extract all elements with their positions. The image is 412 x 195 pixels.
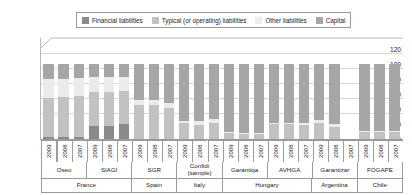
bar-segment [43, 98, 53, 137]
bar-slot[interactable] [372, 49, 387, 139]
stacked-bar[interactable] [344, 49, 354, 139]
x-axis-year-cell: 2007 [208, 140, 223, 162]
stacked-bar[interactable] [58, 49, 68, 139]
x-axis-year-row: 2009200820072009200820072009200820072009… [41, 139, 403, 162]
stacked-bar[interactable] [89, 49, 99, 139]
x-axis-year-cell: 2008 [283, 140, 298, 162]
x-axis-institution-cell: SGR [132, 162, 177, 179]
x-axis-country-cell: Hungary [223, 179, 313, 193]
x-axis-year-cell: 2007 [388, 140, 403, 162]
bar-segment [359, 132, 369, 140]
x-axis-year-cell: 2008 [192, 140, 207, 162]
bar-slot[interactable] [176, 49, 191, 139]
stacked-bar[interactable] [74, 49, 84, 139]
legend-item-typical-liabilities: Typical (or operating) liabilities [152, 17, 247, 24]
stacked-bar[interactable] [329, 49, 339, 139]
bar-slot[interactable] [71, 49, 86, 139]
legend-label: Other liabilities [265, 17, 306, 24]
x-axis-country-cell: France [41, 179, 132, 193]
bar-slot[interactable] [222, 49, 237, 139]
bar-slot[interactable] [116, 49, 131, 139]
bar-segment [58, 64, 68, 79]
x-axis-country-cell: Chile [358, 179, 403, 193]
x-axis-institution-row: OseoSIAGISGRConfidi (sample)GarantiqaAVH… [41, 162, 403, 179]
bar-slot[interactable] [207, 49, 222, 139]
stacked-bar[interactable] [164, 49, 174, 139]
stacked-bar[interactable] [209, 49, 219, 139]
x-axis-year-cell: 2008 [147, 140, 162, 162]
x-axis-year-cell: 2008 [328, 140, 343, 162]
stacked-bar[interactable] [314, 49, 324, 139]
stacked-bar[interactable] [239, 49, 249, 139]
bar-segment [58, 97, 68, 137]
stacked-bar[interactable] [254, 49, 264, 139]
bar-slot[interactable] [267, 49, 282, 139]
bar-segment [104, 126, 114, 140]
bar-segment [104, 92, 114, 126]
stacked-bar[interactable] [389, 49, 399, 139]
stacked-bar[interactable] [359, 49, 369, 139]
bar-segment [209, 64, 219, 119]
stacked-bar[interactable] [134, 49, 144, 139]
bar-slot[interactable] [41, 49, 56, 139]
x-axis-year-cell: 2009 [41, 140, 57, 162]
bar-segment [194, 125, 204, 139]
x-axis-country-cell: Italy [177, 179, 222, 193]
stacked-bar[interactable] [194, 49, 204, 139]
bar-segment [179, 64, 189, 121]
x-axis-year-cell: 2007 [253, 140, 268, 162]
bar-slot[interactable] [252, 49, 267, 139]
stacked-bar[interactable] [269, 49, 279, 139]
bar-segment [104, 77, 114, 92]
bar-segment [314, 123, 324, 140]
bar-segment [119, 124, 129, 139]
bar-slot[interactable] [146, 49, 161, 139]
x-axis-year-cell: 2009 [87, 140, 102, 162]
bar-slot[interactable] [297, 49, 312, 139]
chart-legend: Financial liabilities Typical (or operat… [76, 12, 351, 28]
stacked-bar[interactable] [104, 49, 114, 139]
x-axis-institution-cell: SIAGI [87, 162, 132, 179]
bar-slot[interactable] [191, 49, 206, 139]
x-axis-year-cell: 2009 [223, 140, 238, 162]
bar-slot[interactable] [131, 49, 146, 139]
stacked-bar[interactable] [179, 49, 189, 139]
legend-item-capital: Capital [316, 17, 346, 24]
bar-segment [164, 64, 174, 103]
bar-segment [329, 127, 339, 139]
x-axis-year-cell: 2009 [132, 140, 147, 162]
bar-slot[interactable] [161, 49, 176, 139]
bar-slot[interactable] [101, 49, 116, 139]
legend-swatch-icon [316, 17, 323, 24]
bar-segment [43, 79, 53, 98]
bar-segment [104, 64, 114, 77]
bars-container [41, 49, 402, 139]
bar-segment [89, 64, 99, 77]
stacked-bar[interactable] [284, 49, 294, 139]
stacked-bar[interactable] [374, 49, 384, 139]
bar-segment [164, 108, 174, 140]
bar-segment [194, 64, 204, 121]
x-axis: 2009200820072009200820072009200820072009… [41, 139, 403, 194]
x-axis-year-cell: 2009 [268, 140, 283, 162]
bar-slot[interactable] [56, 49, 71, 139]
bar-slot[interactable] [237, 49, 252, 139]
stacked-bar[interactable] [43, 49, 53, 139]
bar-slot[interactable] [327, 49, 342, 139]
legend-swatch-icon [82, 17, 89, 24]
bar-segment [119, 64, 129, 77]
bar-slot[interactable] [86, 49, 101, 139]
stacked-bar[interactable] [149, 49, 159, 139]
bar-slot[interactable] [282, 49, 297, 139]
bar-slot[interactable] [357, 49, 372, 139]
bar-slot[interactable] [387, 49, 402, 139]
bar-slot[interactable] [342, 49, 357, 139]
x-axis-year-cell: 2009 [313, 140, 328, 162]
stacked-bar[interactable] [224, 49, 234, 139]
stacked-bar[interactable] [299, 49, 309, 139]
x-axis-country-cell: Spain [132, 179, 177, 193]
bar-slot[interactable] [312, 49, 327, 139]
x-axis-institution-cell: Confidi (sample) [177, 162, 222, 179]
bar-segment [389, 64, 399, 131]
stacked-bar[interactable] [119, 49, 129, 139]
